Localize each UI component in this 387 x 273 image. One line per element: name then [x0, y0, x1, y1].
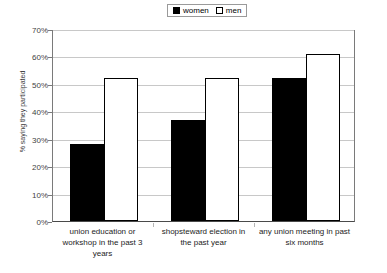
bar-chart: women men % saying they participated 70%…: [0, 0, 387, 273]
x-category-label-line: union education or: [50, 226, 155, 237]
bar-women-2[interactable]: [171, 120, 205, 221]
legend-label-women: women: [183, 7, 209, 15]
x-axis-separator-tick: [254, 223, 255, 227]
y-tick-label: 30%: [2, 136, 48, 145]
x-axis-category-labels: union education orworkshop in the past 3…: [52, 226, 355, 272]
y-tick-label: 10%: [2, 191, 48, 200]
legend-item-men: men: [216, 7, 242, 15]
y-tick-label: 60%: [2, 53, 48, 62]
x-category-label: shopsteward election inthe past year: [151, 226, 256, 248]
x-category-label: union education orworkshop in the past 3…: [50, 226, 155, 259]
x-category-label-line: any union meeting in past: [252, 226, 357, 237]
y-tick-label: 40%: [2, 108, 48, 117]
x-category-label: any union meeting in pastsix months: [252, 226, 357, 248]
bar-group: [171, 30, 239, 221]
x-category-label-line: workshop in the past 3: [50, 237, 155, 248]
y-tick-label: 70%: [2, 26, 48, 35]
y-tick-label: 0%: [2, 218, 48, 227]
bar-women-1[interactable]: [70, 144, 104, 221]
bar-women-3[interactable]: [272, 78, 306, 221]
bar-men-1[interactable]: [104, 78, 138, 221]
bar-men-2[interactable]: [205, 78, 239, 221]
filled-square-icon: [173, 7, 180, 14]
chart-legend: women men: [167, 4, 247, 17]
hollow-square-icon: [216, 7, 223, 14]
x-axis-separator-tick: [153, 223, 154, 227]
legend-item-women: women: [173, 7, 209, 15]
y-tick-label: 20%: [2, 163, 48, 172]
x-category-label-line: the past year: [151, 237, 256, 248]
x-category-label-line: shopsteward election in: [151, 226, 256, 237]
y-tick-label: 50%: [2, 81, 48, 90]
bar-group: [70, 30, 138, 221]
y-tick-mark: [48, 222, 52, 223]
y-axis-ticks: 70%60%50%40%30%20%10%0%: [0, 30, 48, 222]
x-category-label-line: years: [50, 248, 155, 259]
bars-layer: [53, 30, 354, 221]
x-category-label-line: six months: [252, 237, 357, 248]
plot-area: [52, 30, 355, 222]
bar-group: [272, 30, 340, 221]
bar-men-3[interactable]: [306, 54, 340, 221]
legend-label-men: men: [226, 7, 242, 15]
